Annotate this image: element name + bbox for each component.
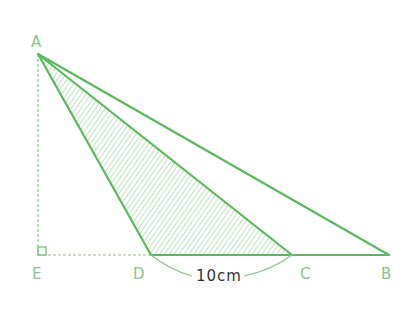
geometry-diagram: A E D C B 10cm	[0, 0, 409, 313]
label-e: E	[32, 265, 41, 283]
measure-arc-right	[244, 255, 292, 276]
measure-arc-left	[151, 255, 192, 276]
label-b: B	[381, 265, 391, 283]
label-a: A	[31, 33, 42, 51]
label-d: D	[133, 265, 145, 283]
label-c: C	[300, 265, 310, 283]
right-angle-marker	[38, 247, 46, 255]
measurement-dc: 10cm	[196, 267, 242, 285]
shaded-triangle-acd	[38, 54, 292, 255]
